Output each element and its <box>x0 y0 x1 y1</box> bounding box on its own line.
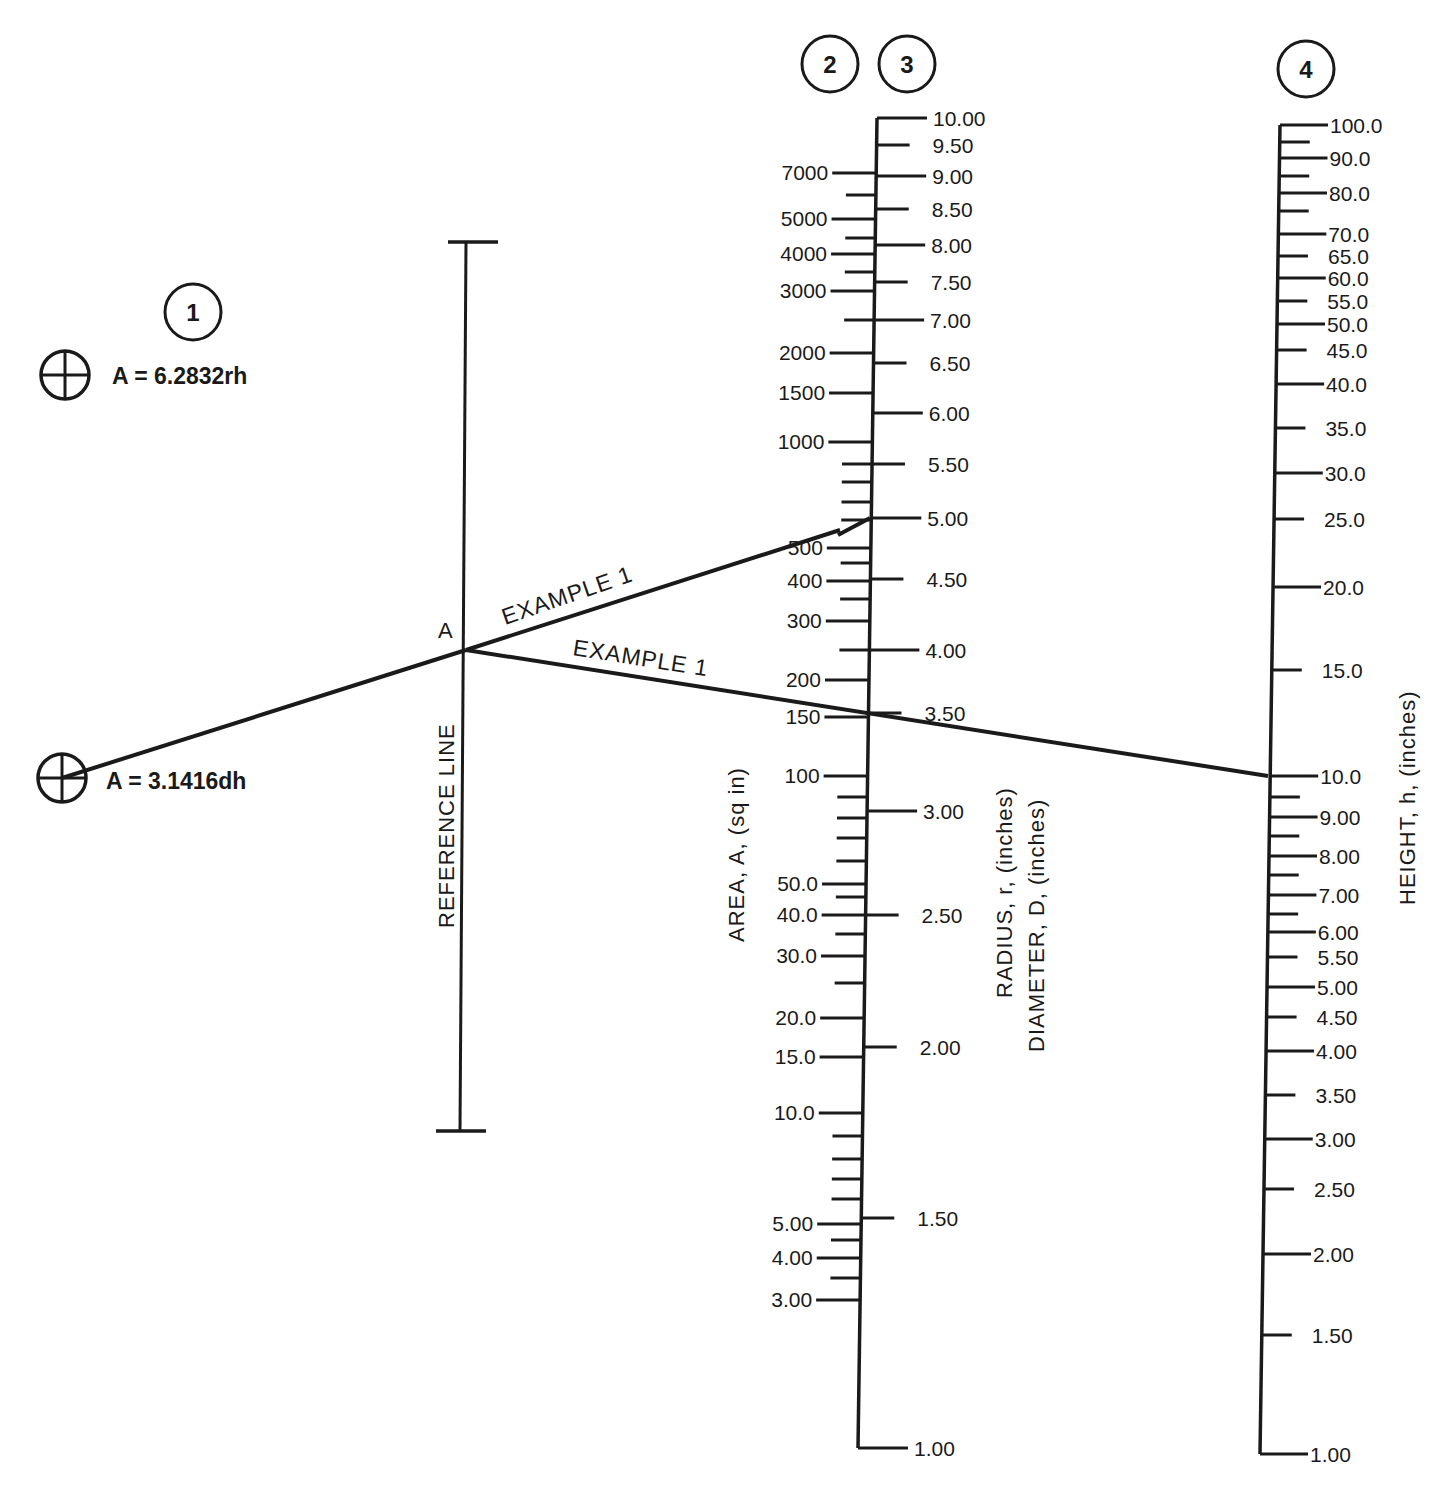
formula-diameter: A = 3.1416dh <box>106 768 246 794</box>
radius-diameter-scale: 10.009.509.008.508.007.507.006.506.005.5… <box>858 107 986 1460</box>
formula-radius: A = 6.2832rh <box>112 363 247 389</box>
radius-tick-label: 6.00 <box>929 402 970 425</box>
height-tick-label: 6.00 <box>1318 921 1359 944</box>
radius-tick-label: 7.00 <box>930 309 971 332</box>
height-tick-label: 4.00 <box>1316 1040 1357 1063</box>
step-badge-number: 2 <box>823 51 836 78</box>
height-tick-label: 35.0 <box>1325 417 1366 440</box>
height-tick-label: 5.50 <box>1317 946 1358 969</box>
step-badges: 1234 <box>165 36 1334 340</box>
height-tick-label: 25.0 <box>1324 508 1365 531</box>
height-tick-label: 30.0 <box>1325 462 1366 485</box>
diameter-axis-title: DIAMETER, D, (inches) <box>1024 799 1049 1052</box>
height-tick-label: 2.50 <box>1314 1178 1355 1201</box>
radius-tick-label: 7.50 <box>931 271 972 294</box>
height-tick-label: 5.00 <box>1317 976 1358 999</box>
height-tick-label: 100.0 <box>1330 114 1383 137</box>
height-tick-label: 10.0 <box>1320 765 1361 788</box>
height-tick-label: 40.0 <box>1326 373 1367 396</box>
reference-line: REFERENCE LINEA <box>434 242 498 1131</box>
radius-tick-label: 3.00 <box>923 800 964 823</box>
radius-tick-label: 9.50 <box>933 134 974 157</box>
formula-group: A = 6.2832rhA = 3.1416dh <box>38 351 247 802</box>
center-axis-line <box>858 118 877 1448</box>
reference-line-stroke <box>460 242 466 1131</box>
height-tick-label: 70.0 <box>1328 223 1369 246</box>
area-tick-label: 100 <box>785 764 820 787</box>
area-tick-label: 5000 <box>781 207 828 230</box>
height-tick-label: 80.0 <box>1329 182 1370 205</box>
area-tick-label: 4.00 <box>772 1246 813 1269</box>
height-tick-label: 2.00 <box>1313 1243 1354 1266</box>
area-axis-title: AREA, A, (sq in) <box>724 767 749 942</box>
example-line-diameter-to-ref <box>62 650 466 778</box>
step-badge-number: 4 <box>1299 56 1313 83</box>
radius-tick-label: 4.50 <box>926 568 967 591</box>
height-tick-label: 90.0 <box>1330 147 1371 170</box>
area-tick-label: 500 <box>788 536 823 559</box>
area-tick-label: 150 <box>785 705 820 728</box>
radius-tick-label: 6.50 <box>930 352 971 375</box>
height-tick-label: 55.0 <box>1327 290 1368 313</box>
area-tick-label: 50.0 <box>777 872 818 895</box>
example-lines: EXAMPLE 1EXAMPLE 1 <box>62 518 1268 778</box>
nomograph-canvas: 1234 A = 6.2832rhA = 3.1416dh REFERENCE … <box>0 0 1449 1489</box>
height-tick-label: 8.00 <box>1319 845 1360 868</box>
area-tick-label: 3000 <box>780 279 827 302</box>
radius-tick-label: 5.00 <box>927 507 968 530</box>
radius-tick-label: 2.50 <box>922 904 963 927</box>
reference-point-label: A <box>438 618 454 643</box>
height-tick-label: 1.50 <box>1312 1324 1353 1347</box>
area-tick-label: 5.00 <box>772 1212 813 1235</box>
area-scale: 7000500040003000200015001000500400300200… <box>771 161 876 1311</box>
area-tick-label: 40.0 <box>777 903 818 926</box>
height-tick-label: 9.00 <box>1320 806 1361 829</box>
height-tick-label: 15.0 <box>1322 659 1363 682</box>
height-tick-label: 4.50 <box>1317 1006 1358 1029</box>
area-tick-label: 30.0 <box>776 944 817 967</box>
area-tick-label: 200 <box>786 668 821 691</box>
reference-line-label: REFERENCE LINE <box>434 723 459 928</box>
radius-tick-label: 2.00 <box>920 1036 961 1059</box>
area-tick-label: 7000 <box>781 161 828 184</box>
radius-tick-label: 3.50 <box>925 702 966 725</box>
area-tick-label: 10.0 <box>774 1101 815 1124</box>
radius-tick-label: 8.50 <box>932 198 973 221</box>
step-badge-number: 1 <box>186 299 199 326</box>
area-tick-label: 300 <box>787 609 822 632</box>
area-tick-label: 1500 <box>778 381 825 404</box>
radius-tick-label: 5.50 <box>928 453 969 476</box>
area-tick-label: 3.00 <box>771 1288 812 1311</box>
height-tick-label: 20.0 <box>1323 576 1364 599</box>
radius-axis-title: RADIUS, r, (inches) <box>992 787 1017 998</box>
area-tick-label: 1000 <box>778 430 825 453</box>
height-axis-title: HEIGHT, h, (inches) <box>1395 690 1420 905</box>
example-line-ref-to-radius <box>466 530 840 650</box>
area-tick-label: 20.0 <box>775 1006 816 1029</box>
radius-tick-label: 4.00 <box>925 639 966 662</box>
height-tick-label: 65.0 <box>1328 245 1369 268</box>
height-tick-label: 1.00 <box>1310 1443 1351 1466</box>
height-tick-label: 3.00 <box>1315 1128 1356 1151</box>
area-tick-label: 4000 <box>780 242 827 265</box>
height-scale: 100.090.080.070.065.060.055.050.045.040.… <box>1260 114 1383 1466</box>
radius-tick-label: 9.00 <box>932 165 973 188</box>
radius-tick-label: 1.50 <box>917 1207 958 1230</box>
height-tick-label: 3.50 <box>1315 1084 1356 1107</box>
area-tick-label: 400 <box>787 569 822 592</box>
example-label-lower: EXAMPLE 1 <box>571 634 710 681</box>
height-tick-label: 60.0 <box>1328 267 1369 290</box>
area-tick-label: 15.0 <box>775 1045 816 1068</box>
height-tick-label: 45.0 <box>1327 339 1368 362</box>
area-tick-label: 2000 <box>779 341 826 364</box>
radius-tick-label: 8.00 <box>931 234 972 257</box>
step-badge-number: 3 <box>900 51 913 78</box>
radius-tick-label: 1.00 <box>914 1437 955 1460</box>
radius-tick-label: 10.00 <box>933 107 986 130</box>
cross-circle-icon <box>41 351 89 399</box>
height-tick-label: 50.0 <box>1327 313 1368 336</box>
height-tick-label: 7.00 <box>1318 884 1359 907</box>
